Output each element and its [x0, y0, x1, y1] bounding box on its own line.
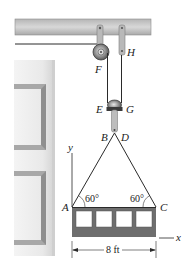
frame-load: [72, 207, 156, 237]
angle-label-a: 60°: [85, 194, 99, 204]
label-a: A: [62, 202, 69, 213]
label-e: E: [96, 104, 103, 115]
ceiling-beam: [15, 19, 151, 35]
angle-label-c: 60°: [130, 194, 144, 204]
diagram-canvas: F H E G B D y A C x 60° 60° 8 ft: [0, 0, 190, 274]
bracket-h: [119, 25, 125, 55]
label-c: C: [160, 202, 167, 213]
pulley-eg: [107, 100, 123, 132]
pulley-f: [93, 44, 109, 60]
label-f: F: [95, 64, 102, 75]
label-d: D: [121, 132, 129, 143]
label-b: B: [101, 132, 108, 143]
diagram-svg: [0, 0, 190, 274]
label-y-axis: y: [68, 142, 73, 153]
label-x-axis: x: [176, 232, 181, 243]
dimension-label: 8 ft: [104, 245, 122, 255]
label-g: G: [126, 104, 134, 115]
wall: [14, 60, 55, 256]
label-h: H: [127, 47, 135, 58]
